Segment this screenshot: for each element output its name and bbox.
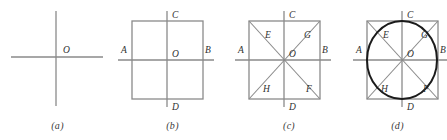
- label-C: C: [407, 10, 414, 20]
- label-G: G: [304, 30, 311, 40]
- panel-c-canvas: A B C D E F G H O: [230, 0, 353, 120]
- panel-a-canvas: O: [0, 0, 115, 120]
- label-O: O: [407, 49, 414, 59]
- label-D: D: [288, 102, 296, 112]
- figure-panel-a: O (a): [0, 0, 115, 140]
- panel-caption-c: (c): [230, 120, 348, 131]
- label-B: B: [322, 45, 328, 55]
- label-D: D: [406, 102, 414, 112]
- panel-d-canvas: A B C D E F G H O: [348, 0, 447, 120]
- label-A: A: [355, 45, 362, 55]
- label-C: C: [172, 10, 179, 20]
- label-A: A: [237, 45, 244, 55]
- label-E: E: [382, 30, 389, 40]
- label-O: O: [63, 45, 70, 55]
- label-H: H: [262, 84, 271, 94]
- panel-caption-a: (a): [0, 120, 115, 131]
- figure-sheet: O (a) A B C D O (b) A B C D E: [0, 0, 447, 140]
- label-D: D: [171, 102, 179, 112]
- label-C: C: [289, 10, 296, 20]
- label-E: E: [264, 30, 271, 40]
- label-A: A: [120, 45, 127, 55]
- panel-caption-b: (b): [115, 120, 230, 131]
- label-B: B: [440, 45, 446, 55]
- label-F: F: [305, 84, 312, 94]
- panel-b-canvas: A B C D O: [115, 0, 235, 120]
- panel-caption-d: (d): [348, 120, 447, 131]
- figure-panel-d: A B C D E F G H O (d): [348, 0, 447, 140]
- label-H: H: [380, 84, 389, 94]
- label-O: O: [172, 49, 179, 59]
- label-G: G: [421, 30, 428, 40]
- label-B: B: [205, 45, 211, 55]
- figure-panel-c: A B C D E F G H O (c): [230, 0, 348, 140]
- label-O: O: [289, 49, 296, 59]
- figure-panel-b: A B C D O (b): [115, 0, 230, 140]
- label-F: F: [422, 84, 429, 94]
